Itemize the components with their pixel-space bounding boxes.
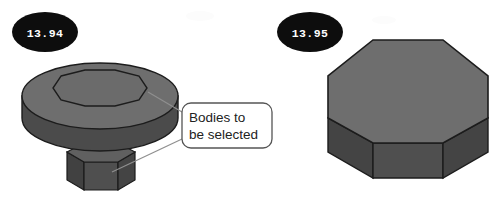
watermark-right-icon	[372, 16, 396, 24]
illustration-surface: Bodies to be selected 13.94 13.95	[0, 0, 502, 202]
hex-shaft-front-face	[84, 162, 118, 190]
screenshot-canvas: Bodies to be selected 13.94 13.95	[0, 0, 502, 202]
prism-top-face	[328, 40, 488, 143]
prism-side-face-front	[373, 143, 443, 178]
figure-octagonal-prism	[328, 40, 488, 178]
octagonal-recess-outline	[53, 70, 147, 106]
figure-flanged-hex-boss	[22, 63, 178, 190]
callout-text-line-2: be selected	[189, 127, 258, 142]
bodies-to-be-selected-callout[interactable]: Bodies to be selected	[182, 103, 272, 148]
step-badge-right-label: 13.95	[292, 27, 329, 40]
step-badge-left-label: 13.94	[27, 27, 64, 40]
watermark-center-icon	[186, 11, 214, 21]
step-badge-right[interactable]: 13.95	[277, 12, 343, 52]
callout-text-line-1: Bodies to	[189, 110, 245, 125]
step-badge-left[interactable]: 13.94	[12, 12, 78, 52]
